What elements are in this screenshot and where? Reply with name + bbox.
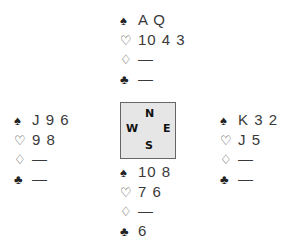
north-clubs: ♣—	[120, 69, 186, 89]
club-icon: ♣	[14, 170, 32, 190]
diamond-icon: ♢	[120, 202, 138, 222]
compass-north: N	[145, 107, 154, 120]
diamond-icon: ♢	[120, 50, 138, 70]
north-hand: ♠A Q ♡10 4 3 ♢— ♣—	[120, 10, 186, 88]
spade-icon: ♠	[120, 11, 138, 31]
west-diamonds: ♢—	[14, 149, 70, 169]
diamond-icon: ♢	[220, 150, 238, 170]
heart-icon: ♡	[14, 131, 32, 151]
west-hearts: ♡9 8	[14, 130, 70, 150]
compass-box: N W E S	[120, 102, 176, 159]
south-spades: ♠10 8	[120, 162, 171, 182]
east-spades: ♠K 3 2	[220, 110, 278, 130]
club-icon: ♣	[220, 170, 238, 190]
south-hearts: ♡7 6	[120, 182, 171, 202]
compass-west: W	[126, 122, 138, 135]
club-icon: ♣	[120, 70, 138, 90]
east-diamonds: ♢—	[220, 149, 278, 169]
south-clubs: ♣6	[120, 221, 171, 241]
east-hand: ♠K 3 2 ♡J 5 ♢— ♣—	[220, 110, 278, 188]
compass-south: S	[145, 139, 153, 152]
west-hand: ♠J 9 6 ♡9 8 ♢— ♣—	[14, 110, 70, 188]
heart-icon: ♡	[120, 31, 138, 51]
south-hand: ♠10 8 ♡7 6 ♢— ♣6	[120, 162, 171, 240]
north-spades: ♠A Q	[120, 10, 186, 30]
east-hearts: ♡J 5	[220, 130, 278, 150]
west-spades: ♠J 9 6	[14, 110, 70, 130]
north-hearts: ♡10 4 3	[120, 30, 186, 50]
heart-icon: ♡	[220, 131, 238, 151]
compass-east: E	[163, 122, 171, 135]
north-diamonds: ♢—	[120, 49, 186, 69]
spade-icon: ♠	[14, 111, 32, 131]
club-icon: ♣	[120, 222, 138, 242]
south-diamonds: ♢—	[120, 201, 171, 221]
spade-icon: ♠	[120, 163, 138, 183]
spade-icon: ♠	[220, 111, 238, 131]
east-clubs: ♣—	[220, 169, 278, 189]
west-clubs: ♣—	[14, 169, 70, 189]
heart-icon: ♡	[120, 183, 138, 203]
diamond-icon: ♢	[14, 150, 32, 170]
